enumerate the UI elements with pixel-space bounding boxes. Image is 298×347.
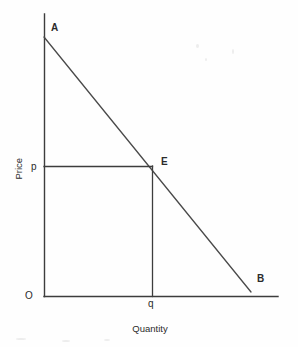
quantity-tick-label: q bbox=[148, 299, 154, 309]
point-label-e: E bbox=[161, 157, 168, 167]
point-label-a: A bbox=[51, 23, 58, 33]
demand-curve-diagram bbox=[0, 0, 298, 347]
price-tick-label: p bbox=[31, 162, 37, 172]
scan-speckle bbox=[196, 44, 199, 48]
point-label-b: B bbox=[257, 274, 264, 284]
scan-speckle bbox=[16, 338, 26, 340]
scan-speckle bbox=[62, 340, 70, 342]
demand-curve-line bbox=[44, 37, 251, 292]
scan-speckle bbox=[205, 58, 207, 61]
scan-speckle bbox=[104, 339, 110, 341]
figure-canvas: A E B p q O Price Quantity bbox=[0, 0, 298, 347]
y-axis-title: Price bbox=[14, 149, 24, 189]
origin-label: O bbox=[25, 291, 33, 301]
x-axis-title: Quantity bbox=[125, 324, 175, 334]
scan-speckle bbox=[232, 49, 234, 54]
